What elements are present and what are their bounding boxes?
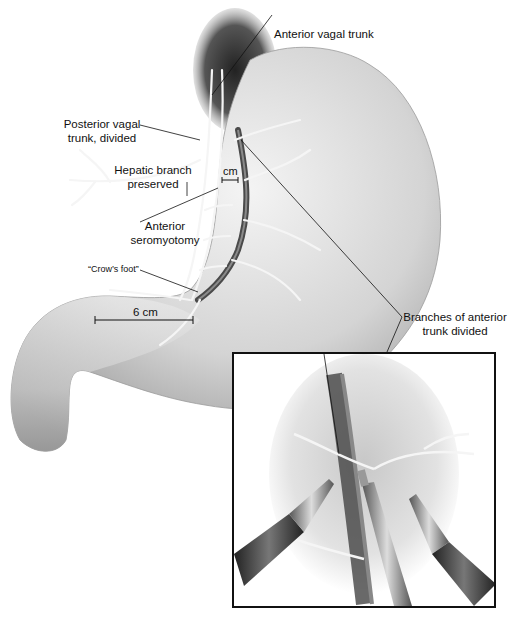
label-cm: cm: [223, 164, 238, 178]
label-crows-foot: “Crow’s foot”: [88, 262, 139, 276]
label-anterior-vagal-trunk: Anterior vagal trunk: [274, 27, 374, 41]
label-anterior-seromyotomy: Anterior seromyotomy: [120, 219, 210, 247]
label-six-cm: 6 cm: [133, 305, 158, 319]
label-posterior-vagal-trunk: Posterior vagal trunk, divided: [62, 117, 142, 145]
inset-illustration: [234, 354, 494, 606]
label-branches-divided: Branches of anterior trunk divided: [400, 310, 510, 338]
label-hepatic-branch: Hepatic branch preserved: [108, 163, 198, 191]
laparoscopic-inset: [232, 352, 496, 608]
